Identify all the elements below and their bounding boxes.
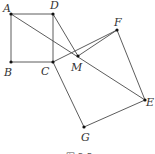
label-A: A: [2, 2, 11, 15]
label-M: M: [70, 61, 83, 74]
point-D: [51, 12, 54, 15]
labels-group: ABCDMFEG: [2, 0, 154, 144]
label-C: C: [41, 65, 50, 78]
label-E: E: [145, 96, 154, 109]
label-G: G: [81, 131, 90, 144]
geometry-diagram: ABCDMFEG 图 3-5: [0, 0, 155, 154]
point-C: [51, 60, 54, 63]
figure-caption: 图 3-5: [66, 152, 93, 154]
point-B: [9, 60, 12, 63]
segment-DM: [53, 14, 78, 56]
segment-FE: [117, 30, 145, 100]
segment-MF: [78, 30, 117, 56]
segment-CF: [53, 30, 117, 62]
segment-EG: [84, 100, 145, 127]
label-F: F: [113, 16, 122, 29]
point-G: [82, 125, 85, 128]
label-B: B: [3, 66, 12, 79]
label-D: D: [49, 0, 59, 12]
point-M: [76, 54, 79, 57]
